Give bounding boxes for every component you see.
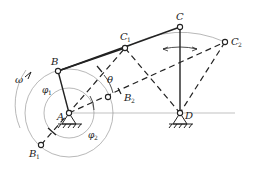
link-AC2 [69,42,225,113]
rocker-arc [125,32,225,48]
c1-tick [97,66,102,72]
link-C2D [180,42,225,113]
osc-arrow-head-left [163,47,168,51]
omega-arrow-icon [25,72,31,79]
osc-arrow-head-right [192,47,197,51]
label-theta: θ [107,74,113,85]
dashed-links [41,42,225,145]
solid-links [58,27,180,113]
joint-B2 [105,94,110,99]
label-A: A [56,111,64,122]
label-C: C [176,11,184,22]
joint-C2 [222,39,227,44]
label-C1-sub: 1 [127,36,131,43]
label-omega: ω [15,74,23,85]
joint-C1 [122,45,127,50]
joint-C [177,24,182,29]
link-AB [58,71,69,113]
label-D: D [184,110,193,121]
joint-B1 [38,142,43,147]
label-B1-sub: 1 [36,153,40,160]
joint-B [55,68,60,73]
four-bar-linkage-diagram: A D B C C 1 C 2 B 1 B 2 θ ω φ 1 φ 2 [0,0,253,169]
joint-A [66,110,71,115]
joints [38,24,227,147]
label-B2-sub: 2 [131,97,135,104]
label-C2-sub: 2 [238,41,242,48]
label-phi1-sub: 1 [48,89,52,96]
label-B: B [50,56,58,67]
joint-D [177,110,182,115]
label-phi2-sub: 2 [94,134,98,141]
